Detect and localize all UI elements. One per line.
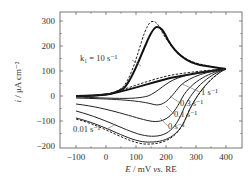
svg-text:0: 0 bbox=[51, 91, 56, 101]
svg-text:300: 300 bbox=[189, 152, 203, 162]
label-1: 1 s⁻¹ bbox=[201, 87, 218, 97]
cyclic-voltammogram-chart: 300 200 100 0 −100 −200 −100 0 100 200 3… bbox=[0, 0, 252, 182]
svg-text:−100: −100 bbox=[67, 152, 86, 162]
x-tick-labels: −100 0 100 200 300 400 bbox=[67, 152, 234, 162]
annotations: k₁ = 10 s⁻¹ 1 s⁻¹ 0.3 s⁻¹ 0.1 s⁻¹ 0 s⁻¹ … bbox=[73, 53, 218, 134]
svg-text:−200: −200 bbox=[36, 141, 55, 151]
label-0: 0 s⁻¹ bbox=[168, 121, 185, 131]
label-0.01: 0.01 s⁻¹ bbox=[73, 124, 101, 134]
svg-text:0: 0 bbox=[104, 152, 109, 162]
svg-text:100: 100 bbox=[129, 152, 143, 162]
svg-text:300: 300 bbox=[42, 16, 56, 26]
y-tick-labels: 300 200 100 0 −100 −200 bbox=[36, 16, 55, 151]
svg-text:200: 200 bbox=[42, 41, 56, 51]
x-axis-title: E / mV vs. RE bbox=[124, 164, 177, 174]
y-axis-title: i / μA cm⁻² bbox=[13, 61, 23, 102]
label-k1: k₁ = 10 s⁻¹ bbox=[80, 53, 118, 63]
label-0.3: 0.3 s⁻¹ bbox=[180, 98, 204, 108]
svg-text:400: 400 bbox=[219, 152, 233, 162]
svg-text:100: 100 bbox=[42, 66, 56, 76]
y-axis-ticks bbox=[60, 21, 242, 134]
label-0.1: 0.1 s⁻¹ bbox=[174, 109, 198, 119]
svg-text:−100: −100 bbox=[36, 116, 55, 126]
svg-text:200: 200 bbox=[159, 152, 173, 162]
